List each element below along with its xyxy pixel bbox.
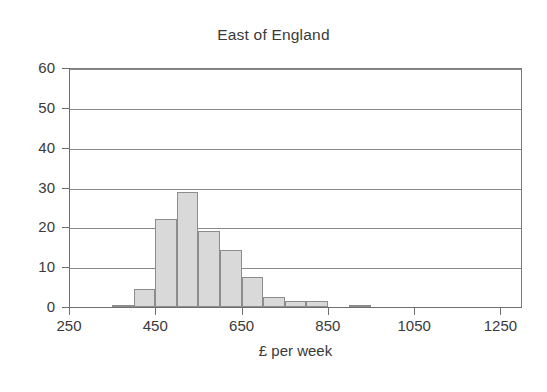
x-tick-650 bbox=[242, 307, 243, 315]
x-tick-label: 650 bbox=[207, 318, 277, 333]
x-tick-450 bbox=[155, 307, 156, 315]
x-tick-850 bbox=[328, 307, 329, 315]
histogram-bar bbox=[155, 219, 177, 307]
y-tick-20 bbox=[62, 227, 70, 228]
histogram-bar bbox=[177, 192, 199, 307]
y-tick-40 bbox=[62, 148, 70, 149]
histogram-bar bbox=[134, 289, 156, 307]
histogram-bar bbox=[242, 277, 264, 307]
x-axis-line bbox=[69, 307, 522, 308]
y-tick-label: 40 bbox=[19, 140, 55, 155]
x-tick-1050 bbox=[414, 307, 415, 315]
x-tick-label: 250 bbox=[34, 318, 104, 333]
y-tick-label: 60 bbox=[19, 60, 55, 75]
x-tick-label: 1250 bbox=[465, 318, 535, 333]
plot-area bbox=[69, 68, 522, 307]
y-tick-label: 10 bbox=[19, 259, 55, 274]
x-tick-label: 1050 bbox=[379, 318, 449, 333]
y-tick-30 bbox=[62, 188, 70, 189]
y-tick-50 bbox=[62, 108, 70, 109]
y-tick-label: 50 bbox=[19, 100, 55, 115]
histogram-bar bbox=[263, 297, 285, 307]
x-tick-1250 bbox=[500, 307, 501, 315]
x-tick-250 bbox=[69, 307, 70, 315]
y-tick-label: 30 bbox=[19, 180, 55, 195]
y-tick-label: 20 bbox=[19, 219, 55, 234]
x-axis-label: £ per week bbox=[69, 342, 522, 359]
histogram-bar bbox=[198, 231, 220, 307]
y-tick-60 bbox=[62, 68, 70, 69]
histogram-bars bbox=[69, 69, 521, 307]
y-tick-label: 0 bbox=[19, 299, 55, 314]
histogram-figure: East of England 0102030405060 2504506508… bbox=[0, 0, 547, 392]
y-tick-10 bbox=[62, 267, 70, 268]
x-tick-label: 850 bbox=[293, 318, 363, 333]
chart-title: East of England bbox=[0, 26, 547, 44]
histogram-bar bbox=[220, 250, 242, 307]
x-tick-label: 450 bbox=[120, 318, 190, 333]
